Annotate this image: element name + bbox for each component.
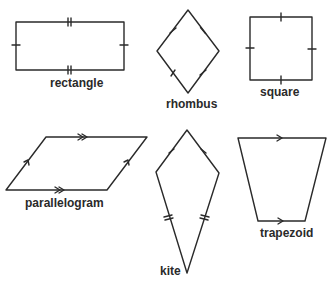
rhombus-shape [157,10,219,93]
rhombus-label: rhombus [166,97,217,111]
kite-label: kite [160,264,181,278]
rectangle-label: rectangle [50,76,103,90]
trapezoid-shape [238,135,326,224]
square-shape [246,13,316,84]
trapezoid-label: trapezoid [260,226,313,240]
parallelogram-label: parallelogram [25,196,104,210]
kite-shape [156,130,219,273]
rectangle-shape [12,18,128,74]
square-label: square [260,85,299,99]
parallelogram-shape [6,134,147,193]
